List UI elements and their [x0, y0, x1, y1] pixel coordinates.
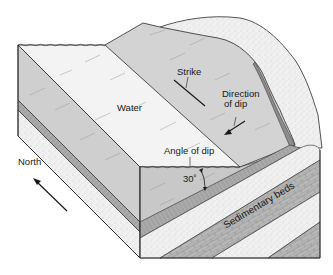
label-north: North [18, 157, 41, 167]
label-direction-of-dip: Direction of dip [222, 89, 260, 109]
label-strike: Strike [177, 67, 201, 77]
strike-dip-block-diagram [0, 0, 333, 275]
label-direction-of-dip-line2: of dip [222, 99, 260, 109]
label-angle-of-dip: Angle of dip [164, 146, 214, 156]
label-angle-value: 30˚ [183, 174, 197, 184]
north-arrow-icon [33, 178, 67, 211]
label-water: Water [117, 103, 142, 113]
